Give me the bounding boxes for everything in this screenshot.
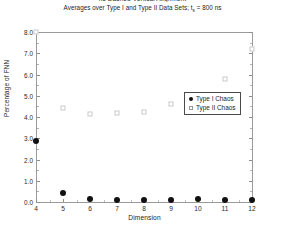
y-tick [37,181,40,182]
y-tick [37,53,40,54]
y-tick-minor [37,149,39,150]
y-tick-label: 7.0 [24,50,33,57]
y-tick-right [249,96,252,97]
data-point [141,197,147,203]
chart-title-prefix: Averages over Type I and Type II Data Se… [64,4,193,11]
data-point [222,197,228,203]
y-tick-minor [37,128,39,129]
chart-figure: ns Dashed Vertical Alignment Averages ov… [0,0,285,231]
y-tick-label: 3.0 [24,135,33,142]
x-tick-label: 12 [248,205,255,212]
y-tick-label: 0.0 [24,199,33,206]
data-point [249,197,255,203]
x-tick-minor [104,200,105,202]
x-tick-label: 8 [142,205,146,212]
x-tick-label: 7 [115,205,119,212]
data-point [33,138,39,144]
data-point [169,102,174,107]
y-tick-minor-right [250,191,252,192]
y-tick-right [249,75,252,76]
y-tick-minor-right [250,43,252,44]
x-tick-label: 5 [61,205,65,212]
y-tick-label: 5.0 [24,92,33,99]
data-point [195,196,201,202]
y-tick [37,160,40,161]
data-point [250,47,255,52]
x-axis-title: Dimension [36,214,253,221]
chart-legend: Type I ChaosType II Chaos [184,92,241,115]
axis-spine-right [252,32,253,203]
y-tick [37,202,40,203]
x-tick-label: 4 [34,205,38,212]
data-point [34,30,39,35]
y-tick-right [249,181,252,182]
y-tick-minor-right [250,64,252,65]
axis-spine-top [36,32,253,33]
y-tick-minor [37,191,39,192]
y-tick-right [249,160,252,161]
y-axis-title: Percentage of FNN [3,60,10,117]
y-tick [37,75,40,76]
y-tick-right [249,138,252,139]
legend-entry: Type I Chaos [189,95,235,104]
data-point [88,112,93,117]
y-tick-right [249,53,252,54]
x-tick-minor [185,200,186,202]
x-tick-minor [131,200,132,202]
y-tick-label: 2.0 [24,156,33,163]
y-tick-right [249,117,252,118]
y-tick-label: 8.0 [24,29,33,36]
chart-title-suffix: = 800 ns [195,4,222,11]
legend-label: Type II Chaos [196,104,235,113]
y-tick-minor [37,85,39,86]
x-tick-label: 11 [222,205,229,212]
chart-title: Averages over Type I and Type II Data Se… [0,4,285,13]
data-point [115,110,120,115]
data-point [87,196,93,202]
plot-area: 0.01.02.03.04.05.06.07.08.0 456789101112… [36,32,253,203]
data-point [142,109,147,114]
data-point [60,190,66,196]
open-square-icon [189,106,193,110]
y-tick-minor-right [250,106,252,107]
y-tick [37,96,40,97]
clipped-top-title: ns Dashed Vertical Alignment [0,0,285,2]
x-tick-label: 6 [88,205,92,212]
y-tick-minor [37,64,39,65]
x-tick-minor [158,200,159,202]
x-tick-minor [50,200,51,202]
x-tick [63,199,64,202]
y-tick-minor [37,43,39,44]
x-tick-label: 10 [194,205,201,212]
x-tick-minor [212,200,213,202]
legend-entry: Type II Chaos [189,104,235,113]
y-tick-label: 1.0 [24,177,33,184]
y-tick-minor-right [250,85,252,86]
x-tick [36,199,37,202]
y-tick-minor-right [250,149,252,150]
y-tick-label: 4.0 [24,114,33,121]
y-tick-minor-right [250,128,252,129]
y-tick-minor [37,106,39,107]
y-tick-minor-right [250,170,252,171]
x-tick-minor [239,200,240,202]
y-tick-right [249,32,252,33]
x-tick-minor [77,200,78,202]
legend-label: Type I Chaos [196,95,234,104]
data-point [114,197,120,203]
data-point [168,197,174,203]
y-tick-minor [37,170,39,171]
y-tick-label: 6.0 [24,71,33,78]
filled-circle-icon [189,97,193,101]
x-tick-label: 9 [169,205,173,212]
y-tick [37,117,40,118]
data-point [223,76,228,81]
data-point [61,106,66,111]
